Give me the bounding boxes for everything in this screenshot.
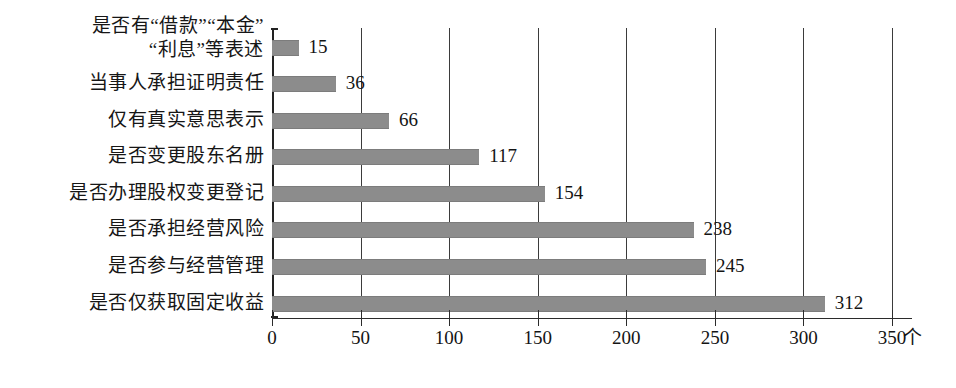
category-axis-labels: 是否有“借款”“本金” “利息”等表述 当事人承担证明责任 仅有真实意思表示 是… [0,0,268,340]
x-tick-label-300: 300 [789,327,818,349]
x-tick-label-0: 0 [267,327,277,349]
bar-value-6: 245 [716,259,745,273]
bar-value-2: 66 [399,113,418,127]
x-tick-50 [361,310,362,326]
gridline-300 [803,28,804,318]
x-tick-200 [626,310,627,326]
x-tick-350 [892,310,893,326]
bar-0 [272,40,299,56]
plot-area: 15 36 66 117 154 238 245 312 [272,28,912,318]
x-tick-label-350: 350 [878,327,907,349]
y-axis-cap-top [271,28,278,30]
x-tick-150 [538,310,539,326]
category-label-4: 是否办理股权变更登记 [69,181,264,205]
x-tick-label-150: 150 [523,327,552,349]
x-tick-0 [272,310,273,326]
bar-value-0: 15 [309,40,328,54]
bar-5 [272,222,694,238]
bar-3 [272,149,479,165]
horizontal-bar-chart: 是否有“借款”“本金” “利息”等表述 当事人承担证明责任 仅有真实意思表示 是… [0,0,956,388]
x-axis-line [272,318,912,319]
category-label-0: 是否有“借款”“本金” “利息”等表述 [92,14,264,62]
category-label-2: 仅有真实意思表示 [108,108,264,132]
category-label-3: 是否变更股东名册 [108,144,264,168]
category-label-5: 是否承担经营风险 [108,217,264,241]
bar-value-4: 154 [555,186,584,200]
x-axis-unit-label: 个 [903,327,922,349]
bar-2 [272,113,389,129]
bar-6 [272,259,706,275]
x-tick-label-200: 200 [612,327,641,349]
x-tick-100 [449,310,450,326]
x-tick-label-250: 250 [701,327,730,349]
category-label-6: 是否参与经营管理 [108,254,264,278]
bar-value-3: 117 [489,149,517,163]
x-tick-label-50: 50 [351,327,370,349]
bar-value-5: 238 [704,222,733,236]
x-tick-250 [715,310,716,326]
bar-value-7: 312 [835,296,864,310]
bar-1 [272,76,336,92]
clipped-bottom-caption [0,379,956,388]
gridline-350 [892,28,893,318]
bar-value-1: 36 [346,76,365,90]
bar-4 [272,186,545,202]
category-label-1: 当事人承担证明责任 [89,71,265,95]
bar-7 [272,296,825,312]
category-label-7: 是否仅获取固定收益 [89,291,265,315]
x-tick-label-100: 100 [435,327,464,349]
x-tick-300 [803,310,804,326]
